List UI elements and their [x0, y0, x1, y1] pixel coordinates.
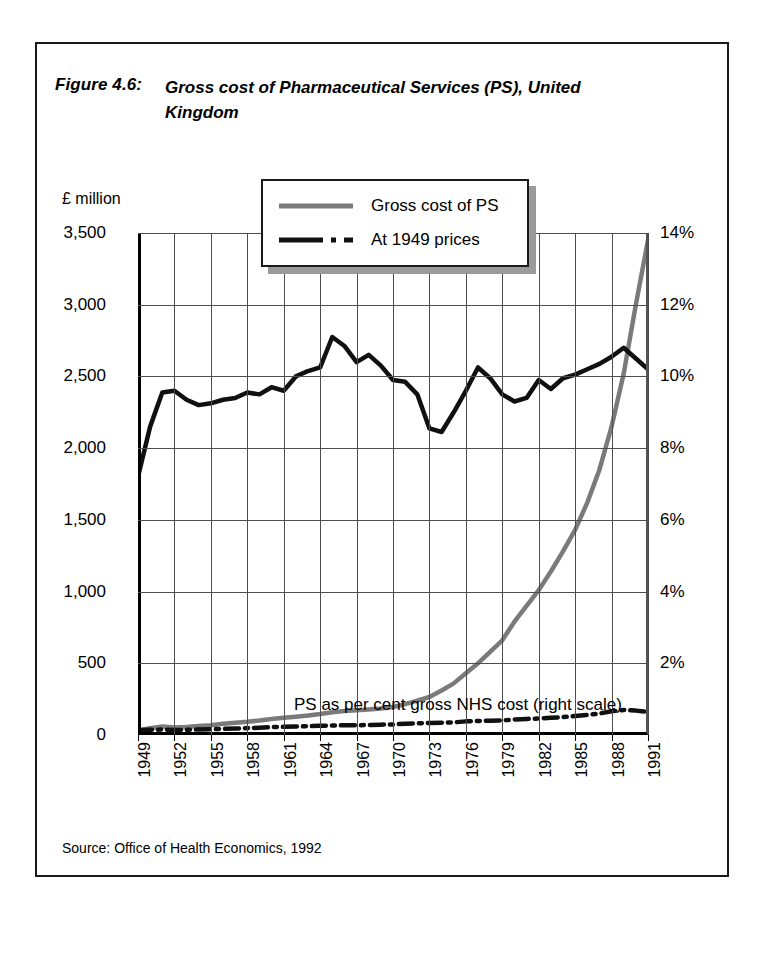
page-title: Gross cost of Pharmaceutical Services (P… — [165, 75, 635, 125]
gridline-vertical — [174, 233, 175, 735]
gridline-vertical — [466, 233, 467, 735]
x-axis-tickmark — [357, 735, 358, 741]
legend-label-0: Gross cost of PS — [371, 196, 499, 216]
x-axis-tick-1958: 1958 — [245, 742, 263, 778]
y-axis-left-tick-3500: 3,500 — [63, 223, 106, 243]
x-axis-tick-1961: 1961 — [282, 742, 300, 778]
x-axis-tickmark — [466, 735, 467, 741]
gridline-vertical — [211, 233, 212, 735]
x-axis-tick-1973: 1973 — [427, 742, 445, 778]
y-axis-left-tick-3000: 3,000 — [63, 295, 106, 315]
gridline-vertical — [648, 233, 649, 735]
gridline-vertical — [429, 233, 430, 735]
legend-item-at-1949-prices[interactable]: At 1949 prices — [277, 225, 480, 255]
x-axis-tickmark — [393, 735, 394, 741]
x-axis-tickmark — [284, 735, 285, 741]
source-note: Source: Office of Health Economics, 1992 — [62, 840, 322, 856]
gridline-vertical — [612, 233, 613, 735]
figure-number-label: Figure 4.6: — [55, 75, 142, 95]
gridline-vertical — [357, 233, 358, 735]
x-axis-tickmark — [612, 735, 613, 741]
y-axis-right-tick-6pct: 6% — [660, 510, 685, 530]
chart-annotation-right-scale: PS as per cent gross NHS cost (right sca… — [294, 695, 622, 715]
legend-item-gross-cost-of-ps[interactable]: Gross cost of PS — [277, 191, 499, 221]
y-axis-right-tick-12pct: 12% — [660, 295, 694, 315]
y-axis-left-tick-2500: 2,500 — [63, 366, 106, 386]
x-axis-tick-1955: 1955 — [209, 742, 227, 778]
gridline-vertical — [284, 233, 285, 735]
gridline-vertical — [539, 233, 540, 735]
gridline-vertical — [247, 233, 248, 735]
legend-label-1: At 1949 prices — [371, 230, 480, 250]
gridline-vertical — [502, 233, 503, 735]
x-axis-tickmark — [502, 735, 503, 741]
legend-swatch-dash-dot-black-icon — [277, 230, 355, 250]
x-axis-tick-1949: 1949 — [136, 742, 154, 778]
x-axis-tick-1967: 1967 — [355, 742, 373, 778]
y-axis-left-tick-1500: 1,500 — [63, 510, 106, 530]
y-axis-right-tick-14pct: 14% — [660, 223, 694, 243]
gridline-vertical — [393, 233, 394, 735]
y-axis-left-tick-0: 0 — [97, 725, 106, 745]
x-axis-tick-1976: 1976 — [464, 742, 482, 778]
x-axis-tickmark — [539, 735, 540, 741]
y-axis-left-tick-2000: 2,000 — [63, 438, 106, 458]
x-axis-tickmark — [429, 735, 430, 741]
x-axis-tickmark — [211, 735, 212, 741]
gridline-vertical — [320, 233, 321, 735]
chart-legend: Gross cost of PS At 1949 prices — [261, 179, 529, 267]
y-axis-right-tick-4pct: 4% — [660, 582, 685, 602]
gridline-vertical — [575, 233, 576, 735]
y-axis-right-tick-10pct: 10% — [660, 366, 694, 386]
y-axis-left-tick-1000: 1,000 — [63, 582, 106, 602]
x-axis-tick-1982: 1982 — [537, 742, 555, 778]
x-axis-tick-1964: 1964 — [318, 742, 336, 778]
x-axis-tick-1970: 1970 — [391, 742, 409, 778]
x-axis-tick-1991: 1991 — [646, 742, 664, 778]
figure-page: Figure 4.6: Gross cost of Pharmaceutical… — [0, 0, 768, 956]
chart-plot-area: PS as per cent gross NHS cost (right sca… — [138, 233, 648, 735]
y-axis-unit-label: £ million — [62, 190, 121, 208]
x-axis-tick-1979: 1979 — [500, 742, 518, 778]
x-axis-tickmark — [575, 735, 576, 741]
x-axis-tick-1952: 1952 — [172, 742, 190, 778]
y-axis-right-tick-2pct: 2% — [660, 653, 685, 673]
y-axis-left-tick-500: 500 — [78, 653, 106, 673]
x-axis-tickmark — [320, 735, 321, 741]
x-axis-tick-1985: 1985 — [573, 742, 591, 778]
legend-swatch-solid-gray-icon — [277, 196, 355, 216]
y-axis-right-tick-8pct: 8% — [660, 438, 685, 458]
x-axis-tickmark — [174, 735, 175, 741]
x-axis-tickmark — [138, 735, 139, 741]
x-axis-tickmark — [648, 735, 649, 741]
x-axis-tick-1988: 1988 — [610, 742, 628, 778]
x-axis-tickmark — [247, 735, 248, 741]
